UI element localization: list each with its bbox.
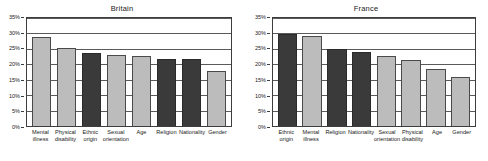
bar	[182, 59, 202, 126]
y-tick-mark	[21, 127, 24, 128]
bar-slot	[79, 18, 104, 126]
y-tick-label: 10%	[255, 93, 266, 99]
x-tick-label: Mental illness	[28, 129, 53, 159]
y-axis-france: 35%30%25%20%15%10%5%0%	[244, 17, 270, 127]
chart-panel-britain: Britain 35%30%25%20%15%10%5%0% Mental il…	[0, 0, 244, 161]
bar-slot	[204, 18, 229, 126]
y-tick-label: 5%	[258, 108, 266, 114]
y-tick-mark	[267, 64, 270, 65]
bar-slot	[275, 18, 300, 126]
bar-slot	[399, 18, 424, 126]
y-tick-label: 35%	[9, 14, 20, 20]
x-tick-label: Gender	[449, 129, 474, 159]
y-tick-mark	[267, 48, 270, 49]
bar	[32, 37, 52, 126]
x-tick-label: Gender	[205, 129, 230, 159]
bar	[132, 56, 152, 126]
y-tick-label: 0%	[12, 124, 20, 130]
y-tick-mark	[21, 48, 24, 49]
bar-slot	[29, 18, 54, 126]
bar	[377, 56, 396, 126]
y-tick-label: 5%	[12, 108, 20, 114]
y-tick-label: 25%	[9, 45, 20, 51]
bar-slot	[179, 18, 204, 126]
y-tick-mark	[267, 33, 270, 34]
x-tick-label: Nationality	[179, 129, 205, 159]
x-tick-label: Physical disability	[400, 129, 425, 159]
y-tick-label: 20%	[255, 61, 266, 67]
bar-slot	[129, 18, 154, 126]
bar-slot	[424, 18, 449, 126]
y-axis-britain: 35%30%25%20%15%10%5%0%	[0, 17, 24, 127]
y-tick-mark	[21, 80, 24, 81]
x-tick-label: Ethnic origin	[274, 129, 299, 159]
y-tick-mark	[21, 33, 24, 34]
x-tick-label: Religion	[154, 129, 179, 159]
bar-slot	[154, 18, 179, 126]
x-tick-label: Sexual orientation	[103, 129, 129, 159]
plot-area-france	[272, 17, 476, 127]
y-tick-label: 30%	[9, 30, 20, 36]
bar	[352, 52, 371, 126]
y-tick-label: 20%	[9, 61, 20, 67]
bar-slot	[54, 18, 79, 126]
bar-slot	[300, 18, 325, 126]
bar	[107, 55, 127, 126]
x-tick-label: Physical disability	[53, 129, 78, 159]
bar	[57, 48, 77, 126]
bar-series-france	[273, 18, 475, 126]
bar	[302, 36, 321, 126]
x-tick-label: Age	[129, 129, 154, 159]
x-tick-label: Age	[425, 129, 450, 159]
y-tick-mark	[21, 111, 24, 112]
bar	[401, 60, 420, 126]
y-tick-label: 35%	[255, 14, 266, 20]
y-tick-mark	[21, 17, 24, 18]
bar	[207, 71, 227, 126]
x-tick-label: Religion	[323, 129, 348, 159]
plot-area-britain	[26, 17, 232, 127]
dual-bar-chart-figure: Britain 35%30%25%20%15%10%5%0% Mental il…	[0, 0, 488, 161]
x-tick-label: Nationality	[348, 129, 374, 159]
bar	[426, 69, 445, 126]
x-tick-label: Ethnic origin	[78, 129, 103, 159]
y-tick-label: 15%	[9, 77, 20, 83]
chart-title-britain: Britain	[0, 4, 244, 13]
y-tick-label: 15%	[255, 77, 266, 83]
y-tick-mark	[267, 127, 270, 128]
bar	[157, 59, 177, 126]
bar	[451, 77, 470, 126]
chart-panel-france: France 35%30%25%20%15%10%5%0% Ethnic ori…	[244, 0, 488, 161]
x-axis-labels-britain: Mental illnessPhysical disabilityEthnic …	[26, 129, 232, 159]
bar	[327, 49, 346, 126]
bar	[82, 53, 102, 126]
bar-slot	[349, 18, 374, 126]
bar-series-britain	[27, 18, 231, 126]
y-tick-mark	[21, 96, 24, 97]
y-tick-mark	[267, 96, 270, 97]
x-tick-label: Sexual orientation	[374, 129, 400, 159]
bar-slot	[374, 18, 399, 126]
y-tick-label: 25%	[255, 45, 266, 51]
y-tick-mark	[267, 111, 270, 112]
bar-slot	[448, 18, 473, 126]
y-tick-mark	[267, 80, 270, 81]
y-tick-mark	[267, 17, 270, 18]
bar	[278, 34, 297, 126]
y-tick-label: 30%	[255, 30, 266, 36]
y-tick-label: 0%	[258, 124, 266, 130]
chart-title-france: France	[244, 4, 488, 13]
bar-slot	[325, 18, 350, 126]
x-tick-label: Mental illness	[299, 129, 324, 159]
y-tick-label: 10%	[9, 93, 20, 99]
y-tick-mark	[21, 64, 24, 65]
bar-slot	[104, 18, 129, 126]
x-axis-labels-france: Ethnic originMental illnessReligionNatio…	[272, 129, 476, 159]
